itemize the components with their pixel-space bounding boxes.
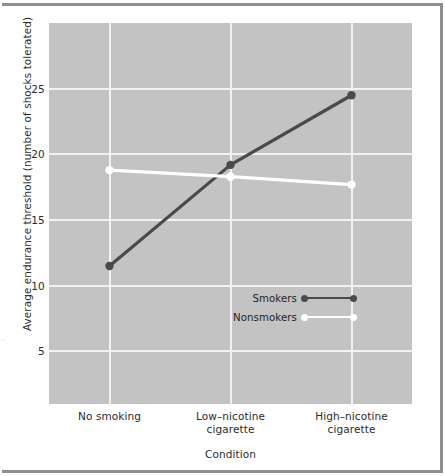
figure-right-rule (440, 3, 443, 473)
figure-top-rule (2, 3, 443, 6)
data-point-nonsmokers-2 (347, 180, 355, 188)
data-point-nonsmokers-1 (226, 173, 234, 181)
figure-frame: ·· 510152025 Average endurance threshold… (0, 0, 445, 476)
data-point-smokers-1 (226, 161, 234, 169)
x-axis-label: Condition (49, 448, 412, 460)
legend-dot-left (301, 314, 308, 321)
legend-dot-left (301, 295, 308, 302)
data-point-smokers-0 (105, 262, 113, 270)
x-tick-label-1: Low–nicotinecigarette (161, 410, 301, 435)
legend-item-nonsmokers: Nonsmokers (222, 309, 357, 325)
legend-label-smokers: Smokers (252, 293, 297, 304)
legend-dot-right (350, 295, 357, 302)
y-tick-label-5: 5 (1, 345, 45, 357)
x-tick-label-line: cigarette (282, 423, 422, 436)
legend-swatch-smokers (301, 293, 357, 303)
figure-bottom-rule (2, 470, 443, 473)
data-point-smokers-2 (347, 91, 355, 99)
y-axis-label: Average endurance threshold (number of s… (21, 81, 33, 331)
plot-area (49, 23, 412, 404)
chart-legend: SmokersNonsmokers (222, 290, 357, 328)
legend-line (304, 297, 354, 299)
x-tick-label-line: No smoking (40, 410, 180, 423)
legend-line (304, 316, 354, 318)
x-axis-ticks: No smokingLow–nicotinecigaretteHigh–nico… (49, 410, 412, 446)
x-tick-label-line: cigarette (161, 423, 301, 436)
x-tick-label-line: High–nicotine (282, 410, 422, 423)
legend-item-smokers: Smokers (222, 290, 357, 306)
x-tick-label-line: Low–nicotine (161, 410, 301, 423)
series-layer (49, 23, 412, 404)
x-tick-label-2: High–nicotinecigarette (282, 410, 422, 435)
data-point-nonsmokers-0 (105, 166, 113, 174)
legend-swatch-nonsmokers (301, 312, 357, 322)
legend-dot-right (350, 314, 357, 321)
x-tick-label-0: No smoking (40, 410, 180, 423)
legend-label-nonsmokers: Nonsmokers (233, 312, 297, 323)
